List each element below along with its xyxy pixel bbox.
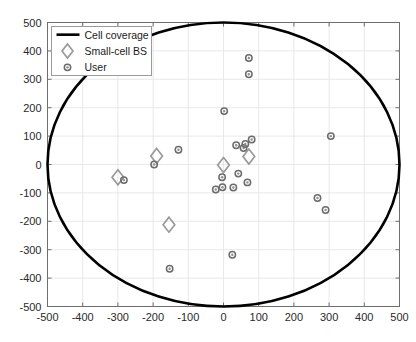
legend-entry-label: Small-cell BS: [85, 45, 147, 57]
user-marker-center: [223, 110, 225, 112]
user-marker-center: [244, 143, 246, 145]
user-marker-center: [221, 186, 223, 188]
x-tick-label: 300: [320, 311, 338, 323]
y-tick-label: 500: [23, 17, 41, 29]
y-tick-label: -200: [19, 215, 41, 227]
y-tick-label: 200: [23, 102, 41, 114]
user-marker-center: [248, 57, 250, 59]
x-tick-label: -100: [177, 311, 199, 323]
user-marker-center: [215, 188, 217, 190]
y-tick-label: 0: [35, 159, 41, 171]
y-tick-label: -300: [19, 244, 41, 256]
x-tick-label: 200: [285, 311, 303, 323]
x-tick-label: -300: [107, 311, 129, 323]
plot-canvas: -500-400-300-200-1000100200300400500 -50…: [0, 0, 416, 342]
user-marker-center: [324, 209, 326, 211]
user-marker-center: [316, 197, 318, 199]
cell-coverage-scatter-figure: -500-400-300-200-1000100200300400500 -50…: [0, 0, 416, 342]
user-marker-center: [153, 163, 155, 165]
chart-legend: Cell coverageSmall-cell BSUser: [52, 27, 152, 76]
y-tick-label: -500: [19, 301, 41, 313]
y-tick-label: 400: [23, 45, 41, 57]
user-marker-center: [168, 268, 170, 270]
legend-entry-label: User: [85, 61, 108, 73]
y-tick-label: 300: [23, 73, 41, 85]
user-marker-center: [221, 176, 223, 178]
user-marker-center: [250, 138, 252, 140]
legend-entry-label: Cell coverage: [85, 29, 149, 41]
x-tick-label: 500: [390, 311, 408, 323]
x-tick-label: 0: [220, 311, 226, 323]
user-marker-center: [177, 149, 179, 151]
y-tick-label: -400: [19, 272, 41, 284]
y-tick-label: -100: [19, 187, 41, 199]
user-marker-center: [232, 186, 234, 188]
user-marker-center: [330, 135, 332, 137]
x-tick-label: -200: [142, 311, 164, 323]
user-marker-center: [246, 181, 248, 183]
y-tick-label: 100: [23, 130, 41, 142]
x-tick-label: 400: [355, 311, 373, 323]
user-marker-center: [231, 254, 233, 256]
user-marker-center: [235, 144, 237, 146]
user-marker-center: [248, 73, 250, 75]
x-tick-label: -400: [72, 311, 94, 323]
user-marker-center: [237, 172, 239, 174]
user-marker-center: [123, 179, 125, 181]
x-tick-label: 100: [250, 311, 268, 323]
legend-circle-marker-center-icon: [66, 66, 68, 68]
